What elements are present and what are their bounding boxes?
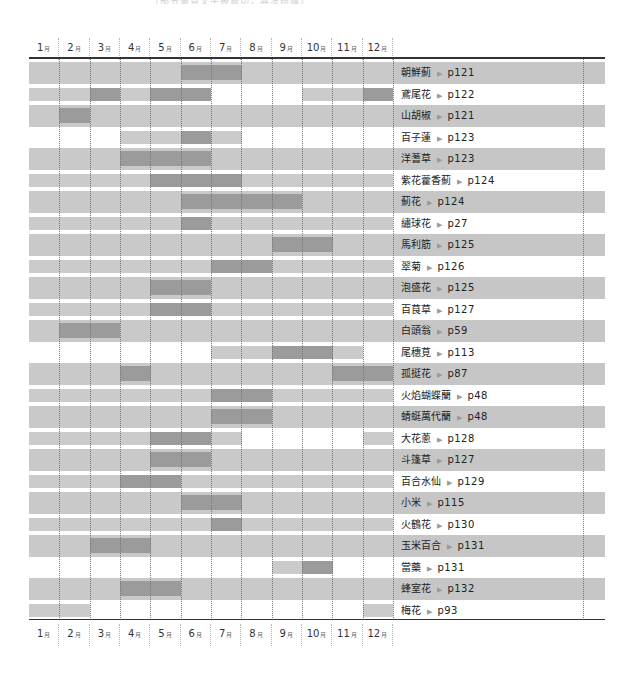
month-label-6: 6月 [181, 624, 211, 646]
page-reference: p123 [447, 153, 474, 164]
plant-label: 百子蓮▶p123 [401, 127, 475, 149]
triangle-right-icon: ▶ [437, 113, 442, 121]
month-label-3: 3月 [90, 624, 120, 646]
triangle-right-icon: ▶ [437, 586, 442, 594]
triangle-right-icon: ▶ [437, 371, 442, 379]
season-month-bar [363, 174, 394, 187]
triangle-right-icon: ▶ [437, 522, 442, 530]
month-unit: 月 [287, 631, 293, 638]
page-reference: p127 [447, 454, 474, 465]
triangle-right-icon: ▶ [437, 328, 442, 336]
triangle-right-icon: ▶ [437, 70, 442, 78]
plant-name: 當藥 [401, 562, 421, 573]
page-reference: p131 [457, 540, 484, 551]
plant-label: 繡球花▶p27 [401, 213, 468, 235]
season-month-bar [181, 475, 212, 488]
plant-row: 繡球花▶p27 [29, 213, 605, 235]
triangle-right-icon: ▶ [427, 500, 432, 508]
plant-row: 小米▶p115 [29, 492, 605, 514]
plant-row: 當藥▶p131 [29, 557, 605, 579]
plant-label: 蜂室花▶p132 [401, 578, 475, 600]
month-unit: 月 [351, 45, 357, 52]
season-month-bar [29, 604, 60, 617]
triangle-right-icon: ▶ [437, 242, 442, 250]
triangle-right-icon: ▶ [437, 285, 442, 293]
peak-month-bar [181, 194, 212, 209]
plant-name: 小米 [401, 497, 421, 508]
season-month-bar [59, 88, 90, 101]
month-unit: 月 [226, 631, 232, 638]
plant-label: 薊花▶p124 [401, 191, 465, 213]
page-reference: p124 [467, 175, 494, 186]
season-month-bar [120, 432, 151, 445]
plant-row: 百合水仙▶p129 [29, 471, 605, 493]
month-number: 8 [249, 628, 255, 639]
season-month-bar [90, 217, 121, 230]
page-reference: p129 [457, 476, 484, 487]
season-month-bar [272, 303, 303, 316]
season-month-bar [90, 518, 121, 531]
peak-month-bar [181, 65, 212, 80]
season-month-bar [59, 518, 90, 531]
month-unit: 月 [135, 631, 141, 638]
season-month-bar [120, 260, 151, 273]
season-month-bar [332, 88, 363, 101]
season-month-bar [29, 260, 60, 273]
page-reference: p126 [437, 261, 464, 272]
peak-month-bar [120, 581, 151, 596]
month-number: 6 [189, 628, 195, 639]
plant-row: 紫花藿香薊▶p124 [29, 170, 605, 192]
plant-row: 泡盛花▶p125 [29, 277, 605, 299]
plant-label: 鳶尾花▶p122 [401, 84, 475, 106]
month-divider [59, 57, 60, 620]
plant-row: 孤挺花▶p87 [29, 363, 605, 385]
page-reference: p115 [437, 497, 464, 508]
season-month-bar [211, 131, 242, 144]
plant-label: 火鶴花▶p130 [401, 514, 475, 536]
season-month-bar [29, 518, 60, 531]
plant-row: 鳶尾花▶p122 [29, 84, 605, 106]
month-number: 2 [67, 42, 73, 53]
plant-name: 翠菊 [401, 261, 421, 272]
peak-month-bar [363, 88, 394, 101]
peak-month-bar [181, 151, 212, 166]
month-number: 6 [189, 42, 195, 53]
season-month-bar [363, 303, 394, 316]
peak-month-bar [241, 389, 272, 402]
season-month-bar [120, 88, 151, 101]
page-reference: p125 [447, 282, 474, 293]
season-month-bar [120, 217, 151, 230]
season-month-bar [29, 389, 60, 402]
bloom-calendar-chart: 朝鮮薊▶p121鳶尾花▶p122山胡椒▶p121百子蓮▶p123洋蓍草▶p123… [29, 57, 605, 620]
month-divider [393, 57, 394, 620]
plant-label: 玉米百合▶p131 [401, 535, 485, 557]
month-unit: 月 [320, 45, 326, 52]
peak-month-bar [150, 280, 181, 295]
season-month-bar [332, 475, 363, 488]
peak-month-bar [120, 366, 151, 381]
month-unit: 月 [381, 631, 387, 638]
month-label-1: 1月 [29, 624, 59, 646]
page-reference: p87 [447, 368, 468, 379]
month-number: 10 [307, 628, 320, 639]
season-month-bar [150, 217, 181, 230]
peak-month-bar [120, 538, 151, 553]
plant-name: 朝鮮薊 [401, 67, 431, 78]
plant-name: 山胡椒 [401, 110, 431, 121]
season-month-bar [332, 217, 363, 230]
peak-month-bar [241, 194, 272, 209]
month-number: 11 [337, 628, 350, 639]
season-month-bar [59, 174, 90, 187]
peak-month-bar [181, 174, 212, 187]
season-month-bar [302, 518, 333, 531]
page-reference: p27 [447, 218, 468, 229]
season-month-bar [272, 475, 303, 488]
triangle-right-icon: ▶ [457, 178, 462, 186]
season-month-bar [211, 217, 242, 230]
month-divider [272, 57, 273, 620]
plant-label: 小米▶p115 [401, 492, 465, 514]
peak-month-bar [120, 151, 151, 166]
season-month-bar [241, 174, 272, 187]
page-reference: p128 [447, 433, 474, 444]
triangle-right-icon: ▶ [437, 135, 442, 143]
